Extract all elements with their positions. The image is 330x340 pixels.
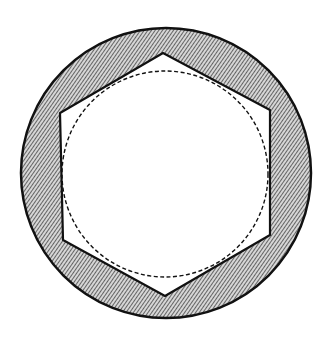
ring-hexagon-diagram xyxy=(0,0,330,340)
hatched-ring xyxy=(0,0,330,340)
